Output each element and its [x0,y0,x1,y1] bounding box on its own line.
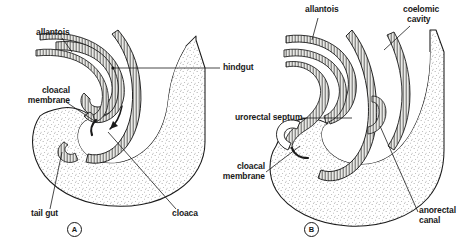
panel-a-drawing [33,30,220,209]
label-cloacal-membrane-a-line2: membrane [0,96,70,106]
leader-b-allantois [312,18,318,40]
label-allantois-b: allantois [305,5,339,15]
label-hindgut: hindgut [223,63,253,73]
label-allantois-a: allantois [36,28,70,38]
label-urorectal-septum: urorectal septum [235,113,302,123]
label-cloacal-membrane-b-line2: membrane [195,172,265,182]
label-coelomic-cavity-line2: cavity [407,15,431,25]
label-tail-gut: tail gut [31,209,58,219]
embryology-figure: allantois cloacal membrane hindgut tail … [0,0,465,248]
label-anorectal-canal-line2: canal [419,216,440,226]
panel-marker-a: A [67,222,82,237]
figure-drawing [0,0,465,248]
label-cloaca: cloaca [172,209,198,219]
panel-marker-b: B [304,222,319,237]
leader-a-hindgut-dot [111,66,114,69]
panel-a-body-mesenchyme [33,36,205,206]
